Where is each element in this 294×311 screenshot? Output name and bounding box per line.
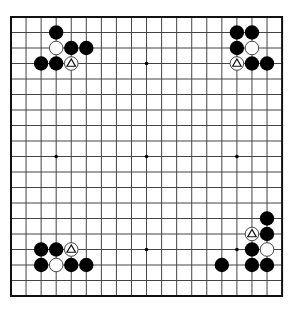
black-stone [260,258,274,272]
black-stone [245,242,259,256]
black-stone-disc [79,41,93,55]
black-stone-disc [34,242,48,256]
black-stone-disc [34,56,48,70]
white-stone [260,243,274,257]
black-stone-disc [49,242,63,256]
black-stone-disc [64,258,78,272]
black-stone [260,227,274,241]
black-stone-disc [245,25,259,39]
black-stone [64,41,78,55]
black-stone-disc [79,258,93,272]
black-stone [34,242,48,256]
black-stone-disc [215,258,229,272]
black-stone [260,211,274,225]
black-stone-disc [64,41,78,55]
star-point [145,155,149,159]
white-stone [245,227,259,241]
black-stone-disc [260,56,274,70]
black-stone-disc [245,56,259,70]
white-stone [230,57,244,71]
star-point [235,155,239,159]
black-stone-disc [34,258,48,272]
black-stone [49,56,63,70]
stones [34,25,274,272]
white-stone [245,41,259,55]
black-stone [49,25,63,39]
black-stone [34,258,48,272]
black-stone [79,258,93,272]
black-stone [49,242,63,256]
black-stone-disc [230,41,244,55]
black-stone [230,41,244,55]
black-stone [215,258,229,272]
black-stone-disc [245,258,259,272]
black-stone-disc [260,258,274,272]
white-stone-disc [49,41,63,55]
black-stone-disc [260,211,274,225]
black-stone [230,25,244,39]
white-stone-disc [49,258,63,272]
black-stone-disc [49,56,63,70]
black-stone [79,41,93,55]
white-stone [49,258,63,272]
black-stone [260,56,274,70]
black-stone-disc [245,242,259,256]
black-stone [34,56,48,70]
star-point [54,155,58,159]
go-board [0,0,294,311]
black-stone-disc [230,25,244,39]
white-stone-disc [245,41,259,55]
star-point [145,248,149,252]
black-stone [245,25,259,39]
white-stone [64,57,78,71]
black-stone [245,258,259,272]
black-stone-disc [49,25,63,39]
star-point [145,62,149,66]
black-stone [245,56,259,70]
black-stone-disc [260,227,274,241]
white-stone [49,41,63,55]
star-point [235,248,239,252]
black-stone [64,258,78,272]
white-stone-disc [260,243,274,257]
white-stone [64,243,78,257]
